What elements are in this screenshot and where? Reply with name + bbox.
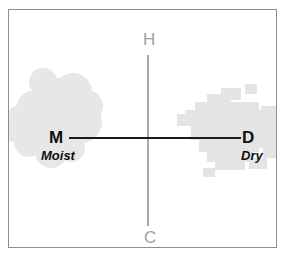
hot-pole-label: H — [143, 31, 155, 48]
axis-layer: H C M Moist D Dry — [9, 10, 276, 247]
temperature-axis-line — [147, 55, 149, 226]
dry-pole-letter: D — [242, 129, 254, 146]
moist-pole-word: Moist — [41, 149, 75, 162]
moist-pole-letter: M — [49, 129, 63, 146]
cold-pole-label: C — [144, 229, 156, 246]
diagram-frame: H C M Moist D Dry — [8, 9, 277, 248]
moisture-axis-line — [69, 137, 241, 139]
figure-root: H C M Moist D Dry — [0, 0, 290, 262]
dry-pole-word: Dry — [241, 149, 263, 162]
plot-area: H C M Moist D Dry — [9, 10, 276, 247]
